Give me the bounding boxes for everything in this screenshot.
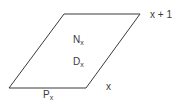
- label-age-x-plus-1: x + 1: [150, 10, 172, 20]
- parallelogram-shape: [9, 14, 140, 88]
- label-d-x: Dx: [73, 57, 84, 67]
- label-n-sub: x: [80, 39, 84, 46]
- label-n-x: Nx: [73, 35, 84, 45]
- label-p-sub: x: [50, 94, 54, 101]
- label-p-x: Px: [43, 90, 53, 100]
- label-age-x: x: [106, 82, 111, 92]
- label-d-sub: x: [80, 61, 84, 68]
- label-p-main: P: [43, 89, 50, 100]
